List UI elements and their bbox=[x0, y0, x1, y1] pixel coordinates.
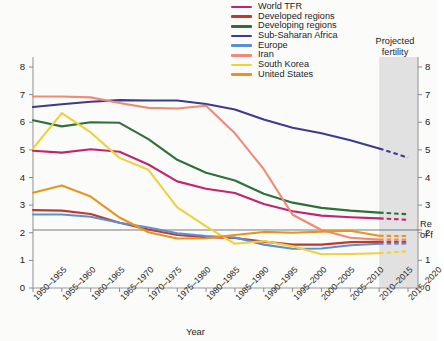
y-axis-right-tick-label: 5 bbox=[425, 144, 439, 155]
projected-fertility-label: Projected fertility bbox=[366, 36, 424, 58]
x-axis-title: Year bbox=[186, 326, 205, 337]
y-axis-right-tick-label: 7 bbox=[425, 89, 439, 100]
legend-item[interactable]: Europe bbox=[231, 41, 381, 51]
y-axis-right-tick-label: 8 bbox=[425, 61, 439, 72]
legend-swatch-icon bbox=[231, 54, 252, 57]
y-axis-right-tick-label: 3 bbox=[425, 199, 439, 210]
legend-swatch-icon bbox=[231, 15, 252, 18]
y-axis-tick-label: 7 bbox=[11, 89, 25, 100]
y-axis-tick-label: 5 bbox=[11, 144, 25, 155]
y-axis-right-tick-label: 4 bbox=[425, 172, 439, 183]
legend-swatch-icon bbox=[231, 64, 252, 67]
y-axis-tick-label: 2 bbox=[11, 227, 25, 238]
legend-item[interactable]: United States bbox=[231, 70, 381, 80]
legend-swatch-icon bbox=[231, 35, 252, 38]
y-axis-tick-label: 0 bbox=[11, 282, 25, 293]
series-line bbox=[33, 186, 379, 239]
y-axis-right-tick-label: 6 bbox=[425, 116, 439, 127]
y-axis-tick-label: 4 bbox=[11, 172, 25, 183]
series-line bbox=[33, 97, 379, 240]
y-axis-tick-label: 8 bbox=[11, 61, 25, 72]
y-axis-tick-label: 1 bbox=[11, 254, 25, 265]
legend-swatch-icon bbox=[231, 25, 252, 28]
projected-fertility-label-line1: Projected bbox=[366, 36, 424, 47]
legend-item-label: United States bbox=[258, 70, 313, 80]
legend-swatch-icon bbox=[231, 44, 252, 47]
series-line bbox=[33, 100, 379, 148]
legend-swatch-icon bbox=[231, 73, 252, 76]
projection-band bbox=[379, 57, 418, 288]
legend-item[interactable]: Sub-Saharan Africa bbox=[231, 31, 381, 41]
legend-swatch-icon bbox=[231, 6, 252, 9]
y-axis-tick-label: 3 bbox=[11, 199, 25, 210]
y-axis-tick-label: 6 bbox=[11, 116, 25, 127]
projected-fertility-label-line2: fertility bbox=[366, 47, 424, 58]
y-axis-right-tick-label: 2 bbox=[425, 227, 439, 238]
chart-legend: World TFRDeveloped regionsDeveloping reg… bbox=[231, 2, 381, 80]
y-axis-right-tick-label: 1 bbox=[425, 254, 439, 265]
